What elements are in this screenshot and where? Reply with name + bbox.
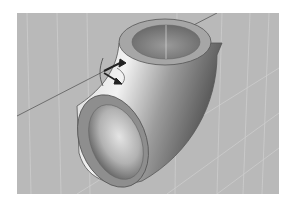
3d-viewport[interactable]: 3D CAD viewport showing a 90-degree pipe… (17, 13, 279, 194)
viewport-canvas (17, 13, 279, 194)
